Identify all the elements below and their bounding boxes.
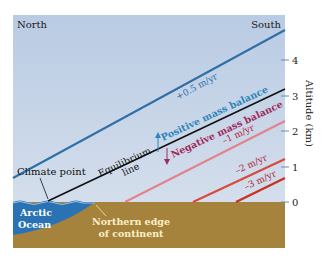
tick-3: 3 <box>292 91 298 102</box>
tick-1: 1 <box>292 162 298 173</box>
arctic-ocean-label-2: Ocean <box>18 219 51 230</box>
northern-edge-label-2: of continent <box>98 228 164 239</box>
climate-point-label: Climate point <box>17 166 86 177</box>
north-label: North <box>17 19 48 30</box>
altitude-axis: 0 1 2 3 4 Altitude (km) <box>281 55 315 208</box>
south-label: South <box>251 19 281 30</box>
northern-edge-label-1: Northern edge <box>92 216 170 227</box>
tick-0: 0 <box>292 197 298 208</box>
tick-4: 4 <box>292 55 298 66</box>
glacier-mass-balance-diagram: North South +0.5 m/yr Climate point Equi… <box>0 0 329 261</box>
tick-2: 2 <box>292 126 298 137</box>
arctic-ocean-label-1: Arctic <box>19 207 52 218</box>
axis-title: Altitude (km) <box>304 79 315 147</box>
